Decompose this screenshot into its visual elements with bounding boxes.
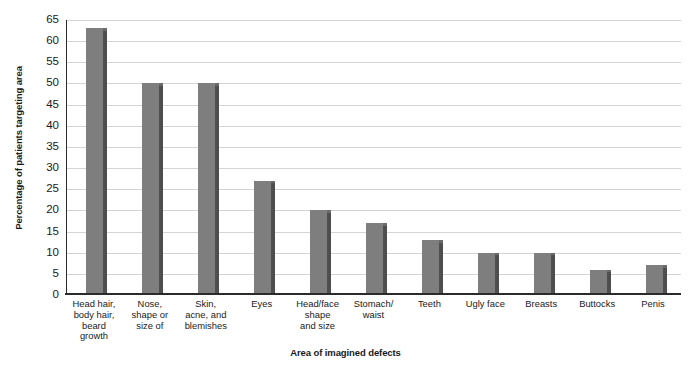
bar-top-bevel <box>215 83 219 86</box>
bar-slot <box>347 20 403 295</box>
bar-shadow-edge <box>663 267 667 295</box>
y-tick-label: 5 <box>53 268 59 279</box>
bar-top-bevel <box>159 83 163 86</box>
bar[interactable] <box>86 28 103 295</box>
y-tick-label: 30 <box>46 162 59 173</box>
y-tick-label: 20 <box>46 204 59 215</box>
bar-shadow-edge <box>215 85 219 295</box>
bar-shadow-edge <box>551 255 555 295</box>
bar-top-bevel <box>103 28 107 31</box>
x-tick-label-line: acne, and <box>172 310 240 321</box>
bar-slot <box>570 20 626 295</box>
x-axis-tick-labels: Head hair,body hair,beardgrowthNose,shap… <box>66 299 681 347</box>
y-tick-label: 0 <box>53 289 59 300</box>
bar-shadow-edge <box>103 30 107 295</box>
bar-top-bevel <box>383 223 387 226</box>
y-tick-label: 25 <box>46 183 59 194</box>
y-tick-label: 45 <box>46 99 59 110</box>
x-tick-label-line: waist <box>340 310 408 321</box>
bar-shadow-edge <box>607 272 611 295</box>
bar-slot <box>179 20 235 295</box>
bar[interactable] <box>254 181 271 295</box>
bar[interactable] <box>198 83 215 295</box>
bar[interactable] <box>646 265 663 295</box>
bar-shadow-edge <box>159 85 163 295</box>
y-axis-title: Percentage of patients targeting area <box>10 16 28 280</box>
bar-top-bevel <box>551 253 555 256</box>
x-axis-line <box>65 293 681 295</box>
x-tick-label-line: growth <box>60 331 128 342</box>
bar-shadow-edge <box>271 183 275 295</box>
bar[interactable] <box>590 270 607 295</box>
bars-layer <box>67 20 681 295</box>
bar-slot <box>67 20 123 295</box>
bar-top-bevel <box>495 253 499 256</box>
y-tick-label: 35 <box>46 141 59 152</box>
bar-slot <box>402 20 458 295</box>
bar[interactable] <box>478 253 495 295</box>
bar-top-bevel <box>439 240 443 243</box>
bar-shadow-edge <box>495 255 499 295</box>
y-tick-label: 10 <box>46 247 59 258</box>
bar[interactable] <box>142 83 159 295</box>
y-tick-label: 40 <box>46 120 59 131</box>
bar-top-bevel <box>271 181 275 184</box>
bar-slot <box>458 20 514 295</box>
bar[interactable] <box>534 253 551 295</box>
y-tick-label: 50 <box>46 77 59 88</box>
y-tick-label: 55 <box>46 56 59 67</box>
bar[interactable] <box>366 223 383 295</box>
x-tick-label-line: Penis <box>619 299 687 310</box>
bar-slot <box>514 20 570 295</box>
bar-slot <box>123 20 179 295</box>
bar-top-bevel <box>327 210 331 213</box>
bar-shadow-edge <box>383 225 387 295</box>
x-tick-label-line: blemishes <box>172 321 240 332</box>
bar-shadow-edge <box>327 212 331 295</box>
y-axis-tick-labels: 05101520253035404550556065 <box>30 20 62 295</box>
x-axis-title: Area of imagined defects <box>0 347 691 358</box>
x-tick-label: Penis <box>619 299 687 310</box>
bar-slot <box>626 20 682 295</box>
y-tick-label: 15 <box>46 226 59 237</box>
plot-area <box>66 20 681 295</box>
bar-top-bevel <box>663 265 667 268</box>
bar-slot <box>235 20 291 295</box>
y-tick-label: 65 <box>46 14 59 25</box>
bar-shadow-edge <box>439 242 443 295</box>
bar-chart: Percentage of patients targeting area 05… <box>0 0 691 372</box>
bar-top-bevel <box>607 270 611 273</box>
y-tick-label: 60 <box>46 35 59 46</box>
bar[interactable] <box>310 210 327 295</box>
bar[interactable] <box>422 240 439 295</box>
bar-slot <box>291 20 347 295</box>
x-tick-label-line: and size <box>284 321 352 332</box>
